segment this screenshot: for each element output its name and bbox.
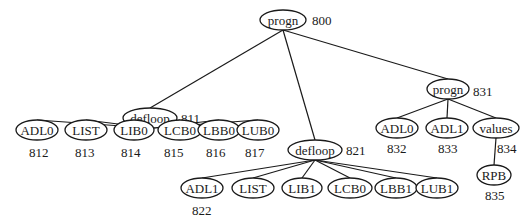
tree-node-rpb-835: RPB835 xyxy=(477,165,511,203)
edge-n821-n826 xyxy=(315,160,396,178)
node-label: LBB1 xyxy=(380,181,412,196)
tree-node-lub1: LUB1 xyxy=(416,178,458,198)
edge-n821-n822 xyxy=(202,160,315,178)
tree-node-adl0-832: ADL0832 xyxy=(376,118,418,156)
node-label: LIB1 xyxy=(288,181,315,196)
tree-node-progn-800: progn800 xyxy=(260,10,332,30)
node-label: ADL1 xyxy=(185,181,218,196)
reference-number: 815 xyxy=(164,145,184,160)
tree-node-adl0-812: ADL0812 xyxy=(16,120,58,160)
reference-number: 835 xyxy=(485,188,505,203)
node-label: values xyxy=(479,121,512,136)
reference-number: 814 xyxy=(121,145,141,160)
edge-n831-n834 xyxy=(448,99,496,118)
tree-node-lbb0-816: LBB0816 xyxy=(198,120,240,160)
edge-n831-n833 xyxy=(447,99,448,118)
tree-node-lib0-814: LIB0814 xyxy=(114,120,154,160)
edge-n834-n835 xyxy=(494,138,496,165)
reference-number: 812 xyxy=(29,145,49,160)
tree-node-lib1: LIB1 xyxy=(282,178,322,198)
reference-number: 813 xyxy=(75,145,95,160)
node-label: RPB xyxy=(482,168,507,183)
node-label: LIB0 xyxy=(120,123,147,138)
tree-node-defloop-821: defloop821 xyxy=(288,140,366,160)
tree-node-lbb1: LBB1 xyxy=(375,178,417,198)
edge-n831-n832 xyxy=(397,99,448,118)
reference-number: 821 xyxy=(346,143,366,158)
node-label: LCB0 xyxy=(334,181,366,196)
tree-node-list: LIST xyxy=(232,178,274,198)
reference-number: 834 xyxy=(497,141,517,156)
edge-n800-n811 xyxy=(150,30,283,108)
tree-node-lub0-817: LUB0817 xyxy=(237,120,279,160)
program-tree-diagram: progn800defloop811ADL0812LIST813LIB0814L… xyxy=(0,0,528,224)
node-label: LUB1 xyxy=(421,181,454,196)
reference-number: 800 xyxy=(312,13,332,28)
node-label: progn xyxy=(433,82,464,97)
reference-number: 822 xyxy=(192,203,212,218)
tree-node-adl1-833: ADL1833 xyxy=(426,118,468,156)
edge-n800-n831 xyxy=(283,30,448,79)
node-label: LCB0 xyxy=(164,123,196,138)
tree-node-lcb0-815: LCB0815 xyxy=(158,120,202,160)
tree-node-progn-831: progn831 xyxy=(427,79,493,99)
node-label: LIST xyxy=(239,181,267,196)
reference-number: 831 xyxy=(473,84,493,99)
reference-number: 816 xyxy=(206,145,226,160)
tree-node-list-813: LIST813 xyxy=(65,120,107,160)
reference-number: 832 xyxy=(387,141,407,156)
tree-node-values-834: values834 xyxy=(473,118,519,156)
node-label: LBB0 xyxy=(203,123,235,138)
node-label: LIST xyxy=(72,123,100,138)
node-label: progn xyxy=(268,13,299,28)
edge-n800-n821 xyxy=(283,30,315,140)
node-label: ADL1 xyxy=(430,121,463,136)
tree-node-lcb0: LCB0 xyxy=(328,178,372,198)
node-label: LUB0 xyxy=(242,123,275,138)
reference-number: 817 xyxy=(245,145,265,160)
node-label: defloop xyxy=(295,143,335,158)
node-label: ADL0 xyxy=(380,121,413,136)
tree-nodes: progn800defloop811ADL0812LIST813LIB0814L… xyxy=(16,10,519,218)
tree-node-adl1-822: ADL1822 xyxy=(181,178,223,218)
node-label: ADL0 xyxy=(20,123,53,138)
reference-number: 833 xyxy=(438,141,458,156)
tree-edges xyxy=(37,30,496,178)
